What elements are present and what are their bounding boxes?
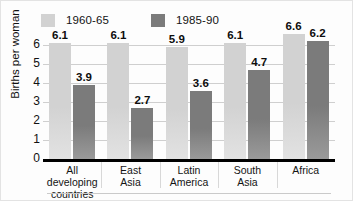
bar-group: 6.12.7 bbox=[107, 45, 165, 159]
bar: 6.1 bbox=[107, 43, 129, 159]
y-tick-0: 0 bbox=[26, 151, 40, 165]
plot-area: 6.13.96.12.75.93.66.14.76.66.2 bbox=[43, 45, 335, 159]
category-label: South Asia bbox=[218, 164, 276, 188]
category-label: Africa bbox=[277, 164, 335, 176]
bar: 5.9 bbox=[166, 47, 188, 159]
bar-chart-figure: 1960-65 1985-90 Births per woman 6543210… bbox=[0, 0, 353, 201]
bar-value-label: 6.6 bbox=[286, 20, 302, 32]
category-label: Latin America bbox=[160, 164, 218, 188]
bar: 6.1 bbox=[49, 43, 71, 159]
x-axis-category-labels: All developing countriesEast AsiaLatin A… bbox=[43, 164, 335, 192]
bar-group: 6.66.2 bbox=[283, 45, 341, 159]
legend-entry-1960-65: 1960-65 bbox=[41, 9, 109, 31]
legend-label-1985-90: 1985-90 bbox=[176, 14, 219, 26]
bar-value-label: 6.1 bbox=[52, 29, 68, 41]
x-axis-baseline bbox=[43, 159, 335, 162]
y-tick-3: 3 bbox=[26, 94, 40, 108]
bar-value-label: 3.6 bbox=[193, 77, 209, 89]
legend-swatch-1960-65 bbox=[41, 14, 55, 27]
bar-group: 6.14.7 bbox=[224, 45, 282, 159]
bar-value-label: 5.9 bbox=[169, 33, 185, 45]
legend-swatch-1985-90 bbox=[151, 14, 165, 27]
bar-value-label: 4.7 bbox=[251, 56, 267, 68]
legend-label-1960-65: 1960-65 bbox=[66, 14, 109, 26]
bar: 6.2 bbox=[307, 41, 329, 159]
category-separator bbox=[277, 162, 278, 188]
y-tick-4: 4 bbox=[26, 75, 40, 89]
legend-entry-1985-90: 1985-90 bbox=[151, 9, 219, 31]
bar: 3.6 bbox=[190, 91, 212, 159]
y-axis-title: Births per woman bbox=[9, 0, 21, 114]
bar-value-label: 3.9 bbox=[76, 71, 92, 83]
y-tick-2: 2 bbox=[26, 113, 40, 127]
bar: 6.1 bbox=[224, 43, 246, 159]
category-separator bbox=[160, 162, 161, 188]
y-tick-5: 5 bbox=[26, 56, 40, 70]
category-label: East Asia bbox=[101, 164, 159, 188]
bar: 2.7 bbox=[131, 108, 153, 159]
category-separator bbox=[101, 162, 102, 188]
bar-value-label: 6.1 bbox=[227, 29, 243, 41]
y-tick-1: 1 bbox=[26, 132, 40, 146]
bar-group: 5.93.6 bbox=[166, 45, 224, 159]
bar-group: 6.13.9 bbox=[49, 45, 107, 159]
category-label: All developing countries bbox=[43, 164, 101, 200]
bar: 4.7 bbox=[248, 70, 270, 159]
category-separator bbox=[218, 162, 219, 188]
bar-value-label: 6.2 bbox=[310, 27, 326, 39]
bar-value-label: 6.1 bbox=[110, 29, 126, 41]
bar: 6.6 bbox=[283, 34, 305, 159]
bar: 3.9 bbox=[73, 85, 95, 159]
footer-rule bbox=[47, 193, 331, 194]
y-tick-6: 6 bbox=[26, 37, 40, 51]
bar-value-label: 2.7 bbox=[134, 94, 150, 106]
